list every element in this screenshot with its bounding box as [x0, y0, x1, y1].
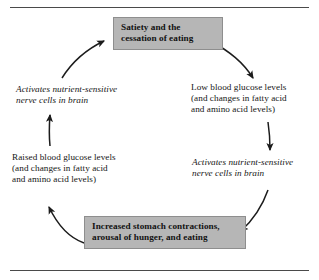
node-raised-glucose: Raised blood glucose levels (and changes…: [12, 152, 140, 185]
arrow-raised-glucose-to-activates-left: [49, 115, 50, 146]
node-raised-glucose-line-2: (and changes in fatty acid: [12, 163, 140, 174]
node-eating-line-2: arousal of hunger, and eating: [92, 232, 238, 243]
figure-container: Satiety and the cessation of eating Low …: [0, 0, 319, 280]
node-activates-left: Activates nutrient-sensitive nerve cells…: [16, 84, 146, 106]
arrow-low-glucose-to-activates-right: [268, 122, 270, 150]
node-activates-right-line-2: nerve cells in brain: [192, 168, 314, 179]
node-low-glucose-line-2: (and changes in fatty acid: [191, 93, 311, 104]
node-activates-right: Activates nutrient-sensitive nerve cells…: [192, 157, 314, 179]
node-satiety-line-2: cessation of eating: [121, 33, 215, 44]
node-raised-glucose-line-3: and amino acid levels): [12, 174, 140, 185]
arrow-activates-left-to-satiety: [62, 41, 104, 78]
node-raised-glucose-line-1: Raised blood glucose levels: [12, 152, 140, 163]
node-satiety-line-1: Satiety and the: [121, 22, 215, 33]
node-activates-left-line-1: Activates nutrient-sensitive: [16, 84, 146, 95]
node-low-glucose: Low blood glucose levels (and changes in…: [191, 82, 311, 115]
node-activates-right-line-1: Activates nutrient-sensitive: [192, 157, 314, 168]
node-satiety: Satiety and the cessation of eating: [113, 17, 223, 50]
node-low-glucose-line-1: Low blood glucose levels: [191, 82, 311, 93]
node-low-glucose-line-3: and amino acid levels): [191, 104, 311, 115]
node-eating-line-1: Increased stomach contractions,: [92, 221, 238, 232]
arrow-eating-to-raised-glucose: [49, 207, 84, 243]
node-activates-left-line-2: nerve cells in brain: [16, 95, 146, 106]
node-eating: Increased stomach contractions, arousal …: [84, 216, 246, 249]
